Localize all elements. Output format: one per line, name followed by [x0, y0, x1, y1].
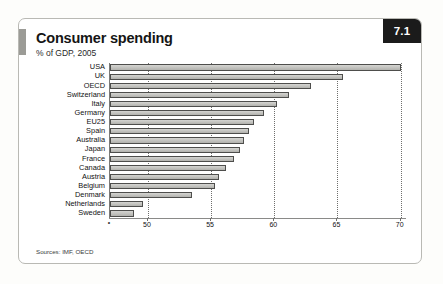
category-label: OECD: [84, 82, 105, 90]
bar: [110, 128, 249, 134]
chart-title: Consumer spending: [36, 30, 173, 46]
category-label: UK: [95, 72, 105, 80]
category-label: Netherlands: [65, 200, 105, 208]
category-axis-labels: USAUKOECDSwitzerlandItalyGermanyEU25Spai…: [36, 63, 109, 218]
x-axis-line: [109, 218, 406, 219]
bar: [110, 92, 289, 98]
category-label: Spain: [86, 127, 105, 135]
chart-panel: 7.1 Consumer spending % of GDP, 2005 USA…: [18, 18, 422, 264]
category-label: Belgium: [78, 182, 105, 190]
gridline: [401, 63, 402, 218]
bar: [110, 147, 240, 153]
bar: [110, 74, 343, 80]
bar: [110, 174, 219, 180]
x-tick-label: 70: [396, 221, 404, 228]
bar: [110, 201, 143, 207]
figure-number-badge: 7.1: [383, 19, 421, 43]
gridline: [337, 63, 338, 218]
plot-area: USAUKOECDSwitzerlandItalyGermanyEU25Spai…: [36, 63, 406, 243]
x-tick-label: 50: [143, 221, 151, 228]
category-label: Sweden: [78, 209, 105, 217]
category-label: Australia: [76, 136, 105, 144]
bar: [110, 156, 234, 162]
source-note: Sources: IMF, OECD: [36, 248, 93, 255]
bar: [110, 64, 401, 70]
bar: [110, 137, 244, 143]
category-label: EU25: [87, 118, 106, 126]
bars-container: [109, 63, 406, 218]
bar: [110, 119, 254, 125]
category-label: Austria: [82, 173, 105, 181]
bar: [110, 110, 264, 116]
x-tick-label: 60: [269, 221, 277, 228]
x-tick-mark: [273, 218, 274, 221]
category-label: Denmark: [75, 191, 105, 199]
bar: [110, 101, 277, 107]
x-tick-mark: [400, 218, 401, 221]
axis-origin-mark: •: [108, 219, 110, 226]
x-tick-label: 65: [333, 221, 341, 228]
bar: [110, 210, 134, 216]
bar: [110, 192, 192, 198]
category-label: Canada: [79, 164, 105, 172]
x-tick-mark: [210, 218, 211, 221]
bar: [110, 183, 215, 189]
accent-tab: [19, 29, 26, 55]
bar: [110, 83, 311, 89]
category-label: Italy: [91, 100, 105, 108]
category-label: USA: [90, 63, 105, 71]
screenshot-root: 7.1 Consumer spending % of GDP, 2005 USA…: [0, 0, 443, 284]
category-label: France: [82, 155, 105, 163]
x-tick-mark: [336, 218, 337, 221]
category-label: Japan: [85, 145, 105, 153]
bar: [110, 165, 226, 171]
x-tick-label: 55: [206, 221, 214, 228]
chart-subtitle: % of GDP, 2005: [36, 48, 96, 58]
category-label: Germany: [75, 109, 105, 117]
category-label: Switzerland: [67, 91, 105, 99]
x-tick-mark: [147, 218, 148, 221]
